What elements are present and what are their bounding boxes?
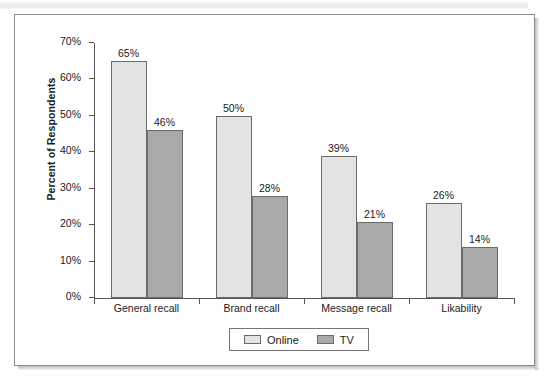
- x-axis-tick: [409, 298, 410, 304]
- y-axis-title: Percent of Respondents: [45, 59, 57, 219]
- y-axis-tick-label: 70%: [60, 35, 81, 47]
- bar-group: 26%14%: [409, 43, 514, 298]
- x-axis-tick: [304, 298, 305, 304]
- chart-legend: OnlineTV: [229, 328, 369, 351]
- x-axis-category-label: Likability: [409, 302, 514, 314]
- x-axis-category-label: Message recall: [304, 302, 409, 314]
- bar-value-label: 50%: [223, 102, 244, 114]
- bar-value-label: 28%: [259, 182, 280, 194]
- bar-tv[interactable]: 28%: [252, 196, 288, 298]
- bar-group: 39%21%: [304, 43, 409, 298]
- bar-value-label: 26%: [433, 189, 454, 201]
- bar-value-label: 65%: [118, 47, 139, 59]
- y-axis-tick-label: 30%: [60, 181, 81, 193]
- plot-area: 0%10%20%30%40%50%60%70%General recall65%…: [94, 43, 514, 298]
- scanner-artifact-band-right: [528, 0, 554, 12]
- bar-group: 50%28%: [199, 43, 304, 298]
- bar-group: 65%46%: [94, 43, 199, 298]
- legend-label: TV: [340, 334, 354, 346]
- scanner-artifact-band: [0, 0, 554, 9]
- y-axis-tick-label: 20%: [60, 217, 81, 229]
- bar-tv[interactable]: 21%: [357, 222, 393, 299]
- bar-value-label: 46%: [154, 116, 175, 128]
- x-axis-tick: [94, 298, 95, 304]
- y-axis-tick-label: 10%: [60, 254, 81, 266]
- bar-online[interactable]: 39%: [321, 156, 357, 298]
- figure-card: Percent of Respondents 0%10%20%30%40%50%…: [14, 14, 535, 366]
- bar-tv[interactable]: 46%: [147, 130, 183, 298]
- legend-item-online[interactable]: Online: [244, 334, 299, 346]
- bar-value-label: 21%: [364, 208, 385, 220]
- bar-value-label: 39%: [328, 142, 349, 154]
- x-axis-tick: [199, 298, 200, 304]
- y-axis-tick-label: 40%: [60, 144, 81, 156]
- x-axis-category-label: General recall: [94, 302, 199, 314]
- x-axis-tick: [514, 298, 515, 304]
- legend-swatch-icon: [317, 335, 334, 344]
- bar-online[interactable]: 26%: [426, 203, 462, 298]
- bar-chart: Percent of Respondents 0%10%20%30%40%50%…: [15, 15, 536, 367]
- bar-online[interactable]: 50%: [216, 116, 252, 298]
- legend-item-tv[interactable]: TV: [317, 334, 354, 346]
- bar-value-label: 14%: [469, 233, 490, 245]
- y-axis-tick-label: 50%: [60, 108, 81, 120]
- bar-tv[interactable]: 14%: [462, 247, 498, 298]
- y-axis-tick-label: 0%: [66, 290, 81, 302]
- legend-label: Online: [267, 334, 299, 346]
- y-axis-tick-label: 60%: [60, 71, 81, 83]
- bar-online[interactable]: 65%: [111, 61, 147, 298]
- legend-swatch-icon: [244, 335, 261, 344]
- x-axis-category-label: Brand recall: [199, 302, 304, 314]
